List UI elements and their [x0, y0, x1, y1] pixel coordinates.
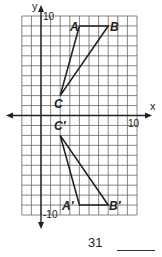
y-bottom-tick-label: -10 — [43, 209, 58, 220]
vertex-label-b-prime: B′ — [109, 199, 122, 213]
vertex-label-a-prime: A′ — [61, 199, 75, 213]
problem-number: 31 — [88, 235, 102, 250]
vertex-label-b: B — [110, 20, 119, 34]
vertex-label-c: C — [54, 97, 63, 111]
x-axis-label: x — [150, 100, 156, 112]
x-axis-right-arrow-icon — [145, 113, 152, 119]
y-axis-label: y — [32, 0, 38, 12]
triangle-a-prime-b-prime-c-prime — [60, 135, 108, 205]
x-tick-label: 10 — [128, 118, 140, 129]
coordinate-graph: y x 10 10 -10 A B C C′ A′ B′ — [0, 0, 162, 257]
x-axis-left-arrow-icon — [6, 113, 13, 119]
y-top-tick-label: 10 — [43, 11, 55, 22]
y-axis-bottom-arrow-icon — [38, 222, 44, 229]
vertex-label-c-prime: C′ — [54, 119, 67, 133]
triangle-abc — [60, 26, 108, 96]
answer-blank[interactable] — [117, 250, 155, 251]
vertex-label-a: A — [69, 20, 79, 34]
